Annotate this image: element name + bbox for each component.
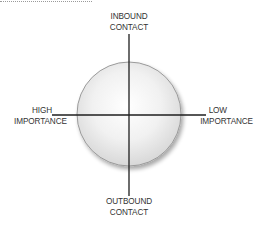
label-line: CONTACT	[108, 23, 150, 34]
label-line: IMPORTANCE	[193, 117, 253, 128]
label-line: INBOUND	[108, 12, 150, 23]
label-line: HIGH	[14, 106, 66, 117]
label-line: OUTBOUND	[100, 197, 158, 208]
label-line: LOW	[193, 106, 253, 117]
label-low-importance: LOW IMPORTANCE	[193, 106, 253, 127]
label-line: IMPORTANCE	[14, 117, 66, 128]
label-line: CONTACT	[100, 208, 158, 219]
label-outbound-contact: OUTBOUND CONTACT	[100, 197, 158, 218]
label-inbound-contact: INBOUND CONTACT	[108, 12, 150, 33]
label-high-importance: HIGH IMPORTANCE	[14, 106, 66, 127]
